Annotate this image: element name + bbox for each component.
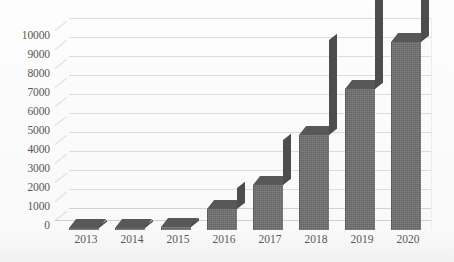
x-axis-tick-label: 2016 xyxy=(201,234,247,246)
y-axis-tick-label: 1000 xyxy=(27,201,50,213)
bar-2014[interactable] xyxy=(115,28,145,230)
y-axis-tick-label: 3000 xyxy=(27,163,50,175)
y-axis-tick-label: 6000 xyxy=(27,106,50,118)
y-axis-tick-label: 10000 xyxy=(22,30,50,42)
bar-2016[interactable] xyxy=(207,28,237,230)
bar-side-face xyxy=(329,34,337,135)
y-axis-tick-label: 4000 xyxy=(27,144,50,156)
y-axis-tick-label: 0 xyxy=(44,220,50,232)
y-axis-tick-label: 2000 xyxy=(27,182,50,194)
bar-2015[interactable] xyxy=(161,28,191,230)
bar-front-face xyxy=(115,228,145,230)
bar-2013[interactable] xyxy=(69,28,99,230)
bar-front-face xyxy=(391,42,421,230)
bar-front-face xyxy=(345,89,375,230)
y-axis-tick-label: 7000 xyxy=(27,87,50,99)
bar-front-face xyxy=(207,209,237,230)
bar-series xyxy=(55,18,440,230)
x-axis-tick-label: 2013 xyxy=(63,234,109,246)
bar-2020[interactable] xyxy=(391,28,421,230)
x-axis-tick-label: 2018 xyxy=(293,234,339,246)
x-axis-tick-label: 2014 xyxy=(109,234,155,246)
y-axis-tick-label: 5000 xyxy=(27,125,50,137)
y-axis-tick-label: 8000 xyxy=(27,68,50,80)
bar-front-face xyxy=(253,185,283,230)
x-axis-tick-labels: 2013 2014 2015 2016 2017 2018 2019 2020 xyxy=(55,234,440,256)
plot-area xyxy=(55,18,440,230)
x-axis-tick-label: 2015 xyxy=(155,234,201,246)
bar-2019[interactable] xyxy=(345,28,375,230)
bar-chart: 10000 9000 8000 7000 6000 5000 4000 3000… xyxy=(0,0,454,262)
bar-side-face xyxy=(237,182,245,209)
bar-side-face xyxy=(375,0,383,89)
bar-side-face xyxy=(421,0,429,42)
bar-side-face xyxy=(283,134,291,185)
bar-2017[interactable] xyxy=(253,28,283,230)
x-axis-tick-label: 2019 xyxy=(339,234,385,246)
x-axis-tick-label: 2017 xyxy=(247,234,293,246)
bar-2018[interactable] xyxy=(299,28,329,230)
x-axis-tick-label: 2020 xyxy=(385,234,431,246)
bar-front-face xyxy=(299,135,329,230)
bar-front-face xyxy=(69,228,99,230)
y-axis-tick-label: 9000 xyxy=(27,49,50,61)
y-axis-tick-labels: 10000 9000 8000 7000 6000 5000 4000 3000… xyxy=(0,0,54,262)
bar-front-face xyxy=(161,227,191,230)
